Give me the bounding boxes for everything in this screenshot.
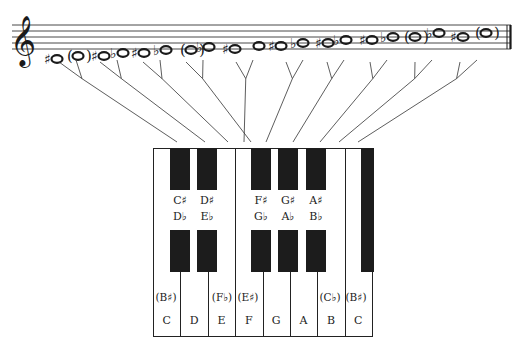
whole-note-icon bbox=[139, 49, 150, 57]
whole-note-icon bbox=[481, 29, 492, 37]
flat-icon: ♭ bbox=[426, 25, 433, 41]
connector-branch bbox=[332, 60, 344, 79]
connector-branch bbox=[76, 60, 82, 79]
note: ♭ bbox=[426, 25, 445, 41]
flat-icon: ♭ bbox=[196, 39, 203, 55]
note: () bbox=[67, 47, 92, 65]
black-key-label: C♯D♭ bbox=[170, 190, 190, 230]
black-key-label: D♯E♭ bbox=[197, 190, 217, 230]
enharmonic-label: (F♭) bbox=[210, 291, 234, 303]
connector-branch bbox=[186, 62, 203, 79]
sharp-icon: ♯ bbox=[44, 51, 51, 67]
connector-line bbox=[320, 79, 373, 142]
white-key-label: C bbox=[345, 314, 372, 327]
connector-branch bbox=[292, 60, 303, 79]
sharp-icon: ♯ bbox=[450, 29, 457, 45]
connector-branch bbox=[143, 62, 162, 79]
whole-note-icon bbox=[99, 52, 110, 60]
connector-line bbox=[293, 79, 332, 142]
note: ♭ bbox=[333, 32, 352, 48]
connector-line bbox=[339, 79, 415, 142]
connector-branch bbox=[246, 60, 253, 79]
treble-clef-icon: 𝄞 bbox=[10, 14, 36, 68]
sharp-icon: ♯ bbox=[315, 35, 322, 51]
enharmonic-label: (B♯) bbox=[154, 291, 178, 303]
connector-line bbox=[162, 79, 228, 142]
white-key-label: D bbox=[180, 314, 207, 327]
connector-line bbox=[244, 79, 246, 142]
paren-close: ) bbox=[494, 24, 500, 42]
connector-line bbox=[358, 79, 457, 142]
white-key-label: G bbox=[263, 314, 290, 327]
connector-lines bbox=[59, 60, 477, 142]
connector-branch bbox=[160, 60, 162, 79]
black-key-label: F♯G♭ bbox=[251, 190, 271, 230]
white-key-label: A bbox=[290, 314, 317, 327]
white-key-label: B bbox=[317, 314, 344, 327]
black-key[interactable] bbox=[361, 148, 374, 272]
connector-branch bbox=[373, 60, 387, 79]
sharp-icon: ♯ bbox=[359, 32, 366, 48]
white-key-label: E bbox=[208, 314, 235, 327]
whole-note-icon bbox=[186, 46, 197, 54]
whole-note-icon bbox=[161, 46, 172, 54]
note: ♭ bbox=[196, 39, 215, 55]
note: ♯ bbox=[44, 51, 63, 67]
note: ♯ bbox=[268, 38, 287, 54]
sharp-icon: ♯ bbox=[91, 48, 98, 64]
connector-line bbox=[266, 79, 292, 142]
whole-note-icon bbox=[204, 43, 215, 51]
black-key-label: A♯B♭ bbox=[306, 190, 326, 230]
whole-note-icon bbox=[118, 49, 129, 57]
white-key-label: C bbox=[153, 314, 180, 327]
whole-note-icon bbox=[52, 55, 63, 63]
white-key-label: F bbox=[235, 314, 262, 327]
note: () bbox=[475, 24, 500, 42]
connector-line bbox=[203, 79, 251, 142]
enharmonic-label: (B♯) bbox=[344, 291, 368, 303]
flat-icon: ♭ bbox=[110, 45, 117, 61]
flat-icon: ♭ bbox=[380, 29, 387, 45]
connector-branch bbox=[415, 60, 432, 79]
enharmonic-label: (E♯) bbox=[236, 291, 260, 303]
note: ♯ bbox=[91, 48, 110, 64]
connector-branch bbox=[286, 62, 292, 79]
note: ♭ bbox=[110, 45, 129, 61]
note: ♯ bbox=[131, 45, 150, 61]
whole-note-icon bbox=[73, 52, 84, 60]
flat-icon: ♭ bbox=[153, 42, 160, 58]
note: ♯ bbox=[359, 32, 378, 48]
sharp-icon: ♯ bbox=[131, 45, 138, 61]
connector-branch bbox=[370, 62, 373, 79]
connector-branch bbox=[327, 62, 332, 79]
sharp-icon: ♯ bbox=[268, 38, 275, 54]
enharmonic-label: (C♭) bbox=[318, 291, 342, 303]
connector-branch bbox=[236, 62, 246, 79]
sharp-icon: ♯ bbox=[222, 41, 229, 57]
whole-note-icon bbox=[434, 29, 445, 37]
note: ♭ bbox=[153, 42, 172, 58]
black-key-label: G♯A♭ bbox=[278, 190, 298, 230]
flat-icon: ♭ bbox=[333, 32, 340, 48]
flat-icon: ♭ bbox=[290, 35, 297, 51]
